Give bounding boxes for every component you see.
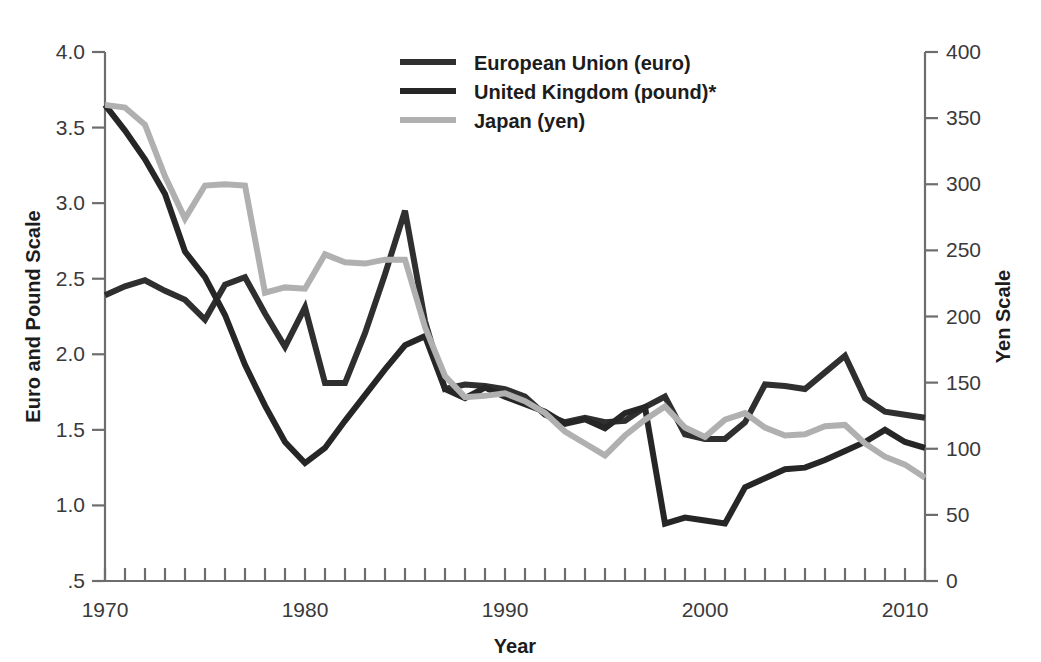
y-axis-tick-label-right: 250 (946, 238, 981, 261)
series-line-2 (105, 105, 925, 478)
y-axis-tick-label-right: 100 (946, 437, 981, 460)
y-axis-tick-label-left: 2.5 (56, 267, 85, 290)
y-axis-tick-label-left: 1.5 (56, 418, 85, 441)
y-axis-tick-label-right: 350 (946, 106, 981, 129)
y-axis-tick-label-right: 150 (946, 371, 981, 394)
x-axis-title: Year (494, 635, 536, 657)
y-axis-tick-label-left: .5 (67, 569, 85, 592)
y-axis-title-right: Yen Scale (992, 270, 1014, 363)
y-axis-title-left: Euro and Pound Scale (22, 210, 44, 422)
x-axis-tick-label: 2010 (882, 598, 929, 621)
series-line-1 (105, 105, 925, 524)
x-axis-tick-label: 1980 (282, 598, 329, 621)
y-axis-tick-label-right: 0 (946, 569, 958, 592)
chart-canvas: .51.01.52.02.53.03.54.005010015020025030… (0, 0, 1041, 662)
y-axis-tick-label-left: 3.5 (56, 116, 85, 139)
legend-label-0: European Union (euro) (474, 52, 691, 74)
y-axis-tick-label-left: 2.0 (56, 342, 85, 365)
y-axis-tick-label-left: 4.0 (56, 40, 85, 63)
x-axis-tick-label: 1990 (482, 598, 529, 621)
y-axis-tick-label-left: 1.0 (56, 493, 85, 516)
exchange-rate-line-chart: .51.01.52.02.53.03.54.005010015020025030… (0, 0, 1041, 662)
y-axis-tick-label-right: 200 (946, 305, 981, 328)
legend-label-1: United Kingdom (pound)* (474, 81, 716, 103)
y-axis-tick-label-right: 50 (946, 503, 969, 526)
y-axis-tick-label-right: 300 (946, 172, 981, 195)
y-axis-tick-label-right: 400 (946, 40, 981, 63)
y-axis-tick-label-left: 3.0 (56, 191, 85, 214)
x-axis-tick-label: 2000 (682, 598, 729, 621)
legend-label-2: Japan (yen) (474, 110, 585, 132)
x-axis-tick-label: 1970 (82, 598, 129, 621)
